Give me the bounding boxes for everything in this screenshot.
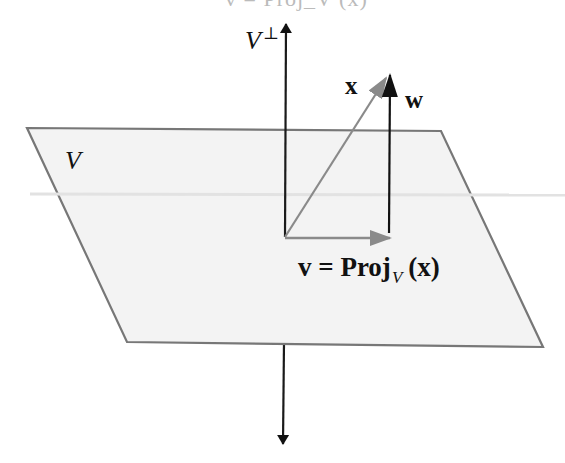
projection-diagram: v = Proj_V (x) V⊥ [0,0,565,463]
perp-symbol: ⊥ [263,24,279,43]
v-perp-axis-upper [285,24,286,237]
equation-suffix: (x) [408,252,439,282]
equation-subscript: V [392,268,402,287]
x-vector-label: x [345,73,358,98]
plane-v-label: V [65,148,81,174]
v-perp-letter: V [245,26,261,55]
diagram-canvas [0,0,565,463]
projection-equation-label: v = ProjV(x) [298,254,440,281]
w-vector [389,75,390,233]
equation-prefix: v = Proj [298,252,391,282]
w-vector-label: w [405,87,423,112]
scan-band [30,194,565,195]
v-perp-axis-lower [283,342,284,444]
v-perp-label: V⊥ [245,28,279,54]
